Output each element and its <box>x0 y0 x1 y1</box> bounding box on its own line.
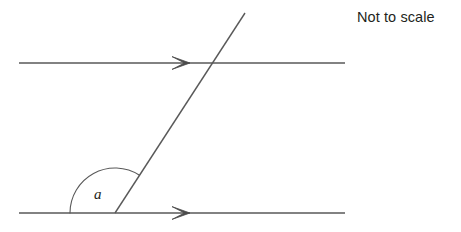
angle-a-label: a <box>94 186 102 202</box>
geometry-diagram <box>0 0 461 232</box>
not-to-scale-note: Not to scale <box>357 8 435 26</box>
figure-canvas: Not to scale a <box>0 0 461 232</box>
transversal-line <box>115 13 245 213</box>
